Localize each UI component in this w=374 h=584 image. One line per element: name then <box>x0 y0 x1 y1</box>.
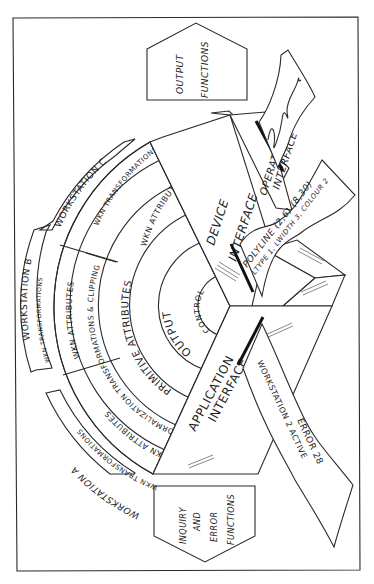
output-functions-line2: FUNCTIONS <box>200 41 210 98</box>
inquiry-line3: ERROR <box>210 511 219 542</box>
wkn-transformations-b: WKN TRANSFORMATIONS <box>35 277 51 364</box>
inquiry-line4: FUNCTIONS <box>227 494 236 545</box>
svg-text:WKN TRANSFORMATIONS: WKN TRANSFORMATIONS <box>35 277 51 364</box>
inquiry-line1: INQUIRY <box>179 507 188 544</box>
inquiry-error-functions-box: INQUIRY AND ERROR FUNCTIONS <box>154 486 255 562</box>
inquiry-line2: AND <box>193 512 202 532</box>
gks-diagram: OUTPUT FUNCTIONS INQUIRY AND ERROR FUNCT… <box>0 0 374 584</box>
output-functions-box: OUTPUT FUNCTIONS <box>147 23 247 100</box>
output-functions-line1: OUTPUT <box>175 53 185 94</box>
svg-text:WORKSTATION B: WORKSTATION B <box>19 257 34 341</box>
workstation-b-label: WORKSTATION B <box>19 257 34 341</box>
